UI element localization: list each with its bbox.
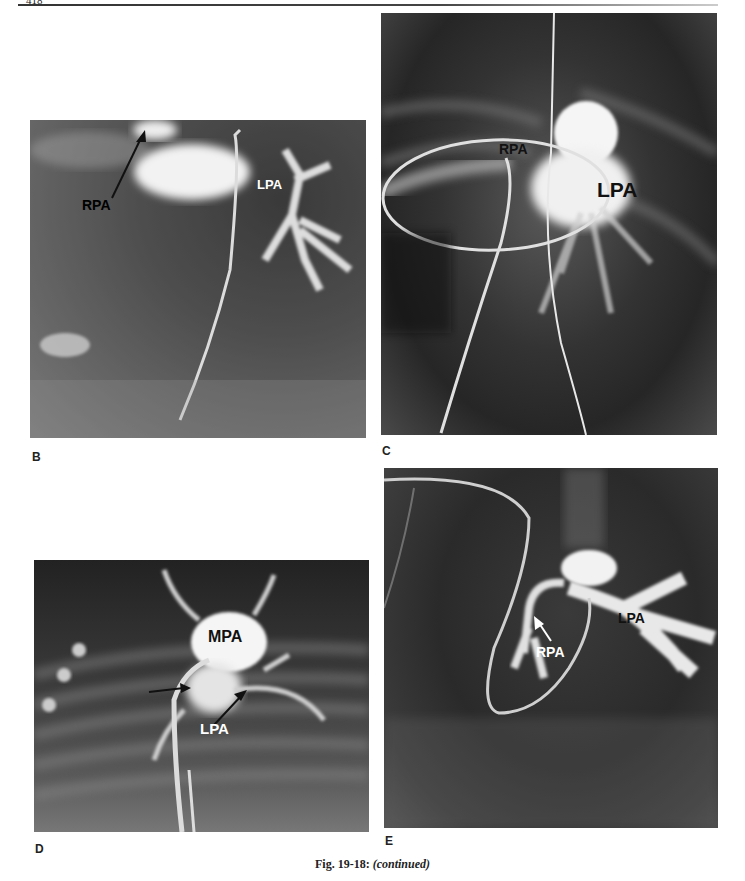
label-lpa: LPA bbox=[618, 610, 645, 626]
label-mpa: MPA bbox=[208, 628, 242, 646]
panel-letter-d: D bbox=[35, 842, 44, 856]
label-lpa: LPA bbox=[597, 178, 637, 202]
label-rpa: RPA bbox=[499, 141, 528, 157]
caption-continued: (continued) bbox=[373, 857, 430, 871]
label-lpa: LPA bbox=[257, 177, 282, 192]
angiogram-panel-c: RPA LPA bbox=[381, 13, 717, 435]
angiogram-d-image bbox=[34, 560, 369, 832]
angiogram-c-image bbox=[381, 13, 717, 435]
figure-caption: Fig. 19-18: (continued) bbox=[0, 857, 745, 872]
caption-number: Fig. 19-18: bbox=[315, 857, 370, 871]
label-lpa: LPA bbox=[200, 720, 229, 737]
label-rpa: RPA bbox=[82, 197, 111, 213]
panel-letter-c: C bbox=[382, 444, 391, 458]
angiogram-b-image bbox=[30, 120, 366, 438]
label-rpa: RPA bbox=[536, 644, 565, 660]
panel-letter-b: B bbox=[32, 450, 41, 464]
angiogram-panel-b: RPA LPA bbox=[30, 120, 366, 438]
panel-letter-e: E bbox=[385, 834, 393, 848]
angiogram-panel-d: MPA LPA bbox=[34, 560, 369, 832]
header-rule bbox=[18, 4, 718, 6]
angiogram-panel-e: RPA LPA bbox=[384, 468, 718, 828]
